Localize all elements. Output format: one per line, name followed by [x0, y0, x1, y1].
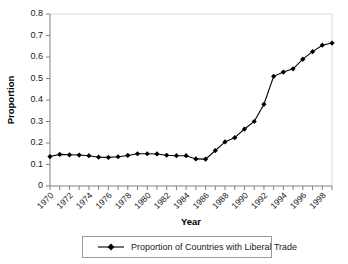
y-axis-title: Proportion [5, 76, 16, 125]
x-tick-label: 1982 [152, 190, 173, 211]
y-tick-label: 0.1 [30, 159, 43, 169]
y-tick-label: 0 [38, 180, 43, 190]
x-tick-label: 1986 [191, 190, 212, 211]
data-point-marker [86, 153, 91, 158]
data-point-marker [261, 102, 266, 107]
data-point-marker [115, 154, 120, 159]
y-tick-label: 0.3 [30, 116, 43, 126]
x-tick-label: 1998 [307, 190, 328, 211]
data-point-marker [67, 152, 72, 157]
x-tick-label: 1976 [93, 190, 114, 211]
chart-canvas: 0.80.70.60.50.40.30.20.10 19701972197419… [0, 0, 348, 264]
data-point-marker [125, 153, 130, 158]
x-tick-group: 1970197219741976197819801982198419861988… [35, 186, 332, 211]
y-tick-label: 0.2 [30, 137, 43, 147]
y-tick-label: 0.4 [30, 94, 43, 104]
data-point-marker [174, 153, 179, 158]
data-point-marker [135, 151, 140, 156]
series-line-0 [50, 43, 332, 159]
data-point-marker [281, 69, 286, 74]
y-tick-group: 0.80.70.60.50.40.30.20.10 [30, 8, 50, 190]
data-point-marker [96, 155, 101, 160]
data-point-marker [106, 155, 111, 160]
x-tick-label: 1988 [210, 190, 231, 211]
data-point-marker [271, 74, 276, 79]
x-tick-label: 1970 [35, 190, 56, 211]
data-point-marker [164, 153, 169, 158]
x-tick-label: 1996 [288, 190, 309, 211]
data-point-marker [329, 40, 334, 45]
x-tick-label: 1978 [113, 190, 134, 211]
legend: Proportion of Countries with Liberal Tra… [83, 237, 298, 258]
line-chart: 0.80.70.60.50.40.30.20.10 19701972197419… [0, 0, 348, 264]
data-point-marker [193, 156, 198, 161]
x-axis: 1970197219741976197819801982198419861988… [35, 186, 332, 211]
data-point-marker [57, 152, 62, 157]
y-tick-label: 0.8 [30, 8, 43, 18]
x-tick-label: 1990 [229, 190, 250, 211]
data-point-marker [47, 154, 52, 159]
x-tick-label: 1994 [268, 190, 289, 211]
x-tick-label: 1992 [249, 190, 270, 211]
y-axis: 0.80.70.60.50.40.30.20.10 [30, 8, 50, 190]
data-point-marker [154, 151, 159, 156]
data-point-marker [77, 152, 82, 157]
data-series-group [47, 40, 334, 161]
data-point-marker [184, 153, 189, 158]
legend-label-0: Proportion of Countries with Liberal Tra… [131, 242, 297, 252]
x-tick-label: 1974 [74, 190, 95, 211]
x-tick-label: 1984 [171, 190, 192, 211]
y-tick-label: 0.7 [30, 30, 43, 40]
data-point-marker [145, 151, 150, 156]
plot-frame [50, 14, 332, 186]
x-tick-label: 1980 [132, 190, 153, 211]
x-tick-label: 1972 [54, 190, 75, 211]
y-tick-label: 0.6 [30, 51, 43, 61]
x-axis-title: Year [181, 216, 201, 227]
y-tick-label: 0.5 [30, 73, 43, 83]
